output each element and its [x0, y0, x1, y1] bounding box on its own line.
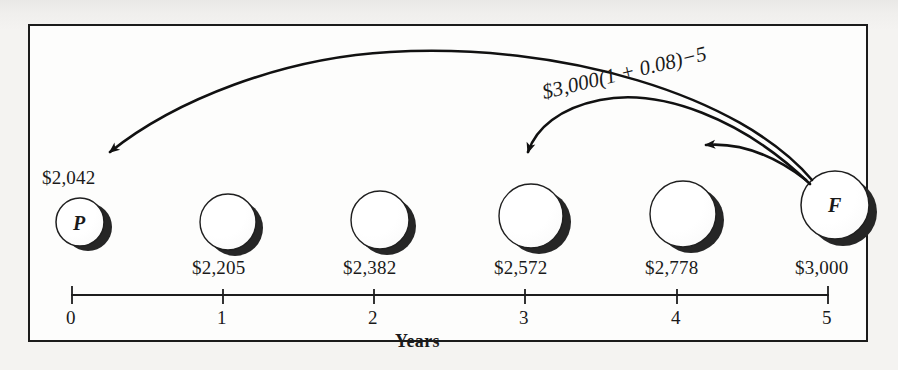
node-4-marker [650, 181, 724, 253]
arrow-f-to-year-4 [706, 145, 806, 180]
axis-label-0: 0 [66, 308, 76, 327]
node-5-letter: F [828, 195, 841, 215]
axis-label-5: 5 [822, 308, 832, 327]
node-5-amount: $3,000 [795, 258, 848, 277]
node-2-marker [351, 191, 416, 255]
figure-page: $3,000(1 + 0.08)−5 P F $2,042 $2,205 $2,… [0, 0, 898, 370]
timeline-diagram-canvas [0, 0, 898, 370]
node-4-amount: $2,778 [645, 258, 698, 277]
node-2-amount: $2,382 [343, 258, 396, 277]
axis-label-1: 1 [217, 308, 227, 327]
year-axis [72, 287, 828, 303]
node-1-marker [200, 194, 263, 256]
axis-label-3: 3 [519, 308, 529, 327]
axis-label-4: 4 [671, 308, 681, 327]
node-0-amount: $2,042 [42, 168, 95, 187]
node-3-amount: $2,572 [494, 258, 547, 277]
axis-title: Years [395, 332, 440, 350]
node-0-letter: P [73, 213, 85, 233]
node-3-marker [499, 184, 571, 254]
axis-label-2: 2 [368, 308, 378, 327]
node-1-amount: $2,205 [192, 258, 245, 277]
